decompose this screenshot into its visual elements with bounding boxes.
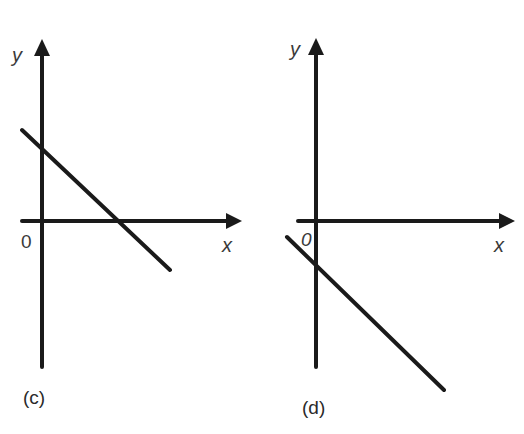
y-axis-arrow-icon bbox=[34, 39, 50, 56]
y-axis-label: y bbox=[10, 44, 23, 66]
y-axis bbox=[308, 38, 324, 367]
y-axis-arrow-icon bbox=[308, 38, 324, 55]
figure-canvas: y 0 x (c) y 0 x (d) bbox=[0, 0, 524, 434]
panel-c: y 0 x (c) bbox=[10, 39, 242, 408]
x-axis-arrow-icon bbox=[499, 213, 515, 229]
x-axis bbox=[22, 213, 242, 229]
origin-label: 0 bbox=[21, 231, 32, 252]
x-axis-label: x bbox=[493, 234, 505, 256]
y-axis bbox=[34, 39, 50, 367]
graph-line bbox=[22, 130, 170, 270]
y-axis-label: y bbox=[288, 38, 301, 60]
x-axis-label: x bbox=[221, 234, 233, 256]
panel-caption: (d) bbox=[302, 397, 325, 418]
graph-line bbox=[287, 237, 444, 390]
origin-label: 0 bbox=[301, 229, 312, 250]
panel-d: y 0 x (d) bbox=[287, 38, 515, 418]
x-axis bbox=[298, 213, 515, 229]
x-axis-arrow-icon bbox=[226, 213, 242, 229]
panel-caption: (c) bbox=[23, 387, 45, 408]
